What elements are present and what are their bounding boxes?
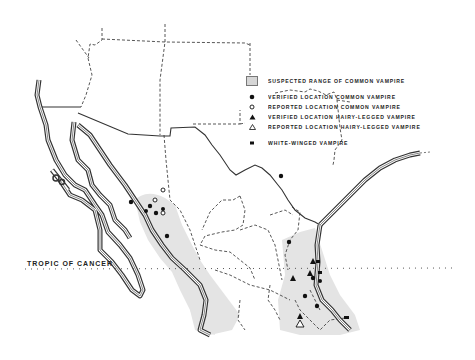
legend-label: VERIFIED LOCATION COMMON VAMPIRE <box>268 94 396 100</box>
legend-item-suspected-range: SUSPECTED RANGE OF COMMON VAMPIRE <box>246 74 446 88</box>
filled-square-icon <box>246 140 258 146</box>
legend-item-reported-common: REPORTED LOCATION COMMON VAMPIRE <box>246 102 446 112</box>
open-circle-icon <box>246 104 258 110</box>
open-triangle-icon <box>246 124 258 130</box>
filled-circle-icon <box>246 94 258 100</box>
legend: SUSPECTED RANGE OF COMMON VAMPIRE VERIFI… <box>246 74 446 148</box>
legend-label: REPORTED LOCATION HAIRY-LEGGED VAMPIRE <box>268 124 421 130</box>
legend-item-reported-hairy-legged: REPORTED LOCATION HAIRY-LEGGED VAMPIRE <box>246 122 446 132</box>
range-map <box>0 0 475 360</box>
legend-label: REPORTED LOCATION COMMON VAMPIRE <box>268 104 401 110</box>
legend-item-verified-hairy-legged: VERIFIED LOCATION HAIRY-LEGGED VAMPIRE <box>246 112 446 122</box>
legend-item-verified-common: VERIFIED LOCATION COMMON VAMPIRE <box>246 92 446 102</box>
tropic-of-cancer-label: TROPIC OF CANCER <box>27 260 113 267</box>
tropic-of-cancer-line <box>25 268 455 269</box>
legend-label: SUSPECTED RANGE OF COMMON VAMPIRE <box>268 78 405 84</box>
filled-triangle-icon <box>246 114 258 120</box>
legend-item-white-winged: WHITE-WINGED VAMPIRE <box>246 138 446 148</box>
suspected-range-common-vampire <box>135 194 360 335</box>
range-swatch-icon <box>246 76 258 86</box>
legend-label: WHITE-WINGED VAMPIRE <box>268 140 348 146</box>
legend-label: VERIFIED LOCATION HAIRY-LEGGED VAMPIRE <box>268 114 416 120</box>
